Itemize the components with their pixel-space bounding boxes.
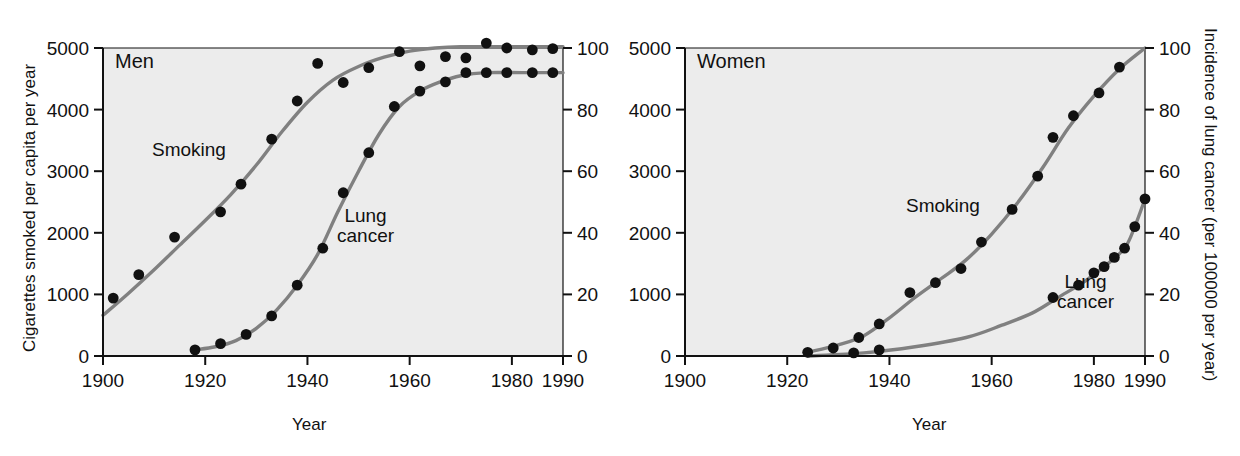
series-label-smoking-men: Smoking [152, 140, 226, 160]
svg-text:1980: 1980 [491, 370, 533, 391]
svg-text:4000: 4000 [47, 100, 89, 121]
svg-text:4000: 4000 [629, 100, 671, 121]
svg-text:1960: 1960 [971, 370, 1013, 391]
svg-text:40: 40 [1159, 223, 1180, 244]
svg-text:3000: 3000 [47, 161, 89, 182]
series-label-smoking-women: Smoking [906, 196, 980, 216]
svg-text:1900: 1900 [82, 370, 124, 391]
svg-text:1000: 1000 [629, 284, 671, 305]
svg-text:60: 60 [577, 161, 598, 182]
panel-women: 1900192019401960198019900100020003000400… [620, 0, 1240, 456]
svg-text:0: 0 [577, 346, 588, 367]
svg-text:80: 80 [1159, 100, 1180, 121]
right-axis-title-women: Incidence of lung cancer (per 100000 per… [1200, 28, 1220, 381]
series-label-line1: Lung [1057, 272, 1114, 292]
svg-text:1900: 1900 [664, 370, 706, 391]
left-axis-title-men: Cigarettes smoked per capita per year [20, 64, 40, 352]
svg-text:100: 100 [577, 38, 609, 59]
svg-text:0: 0 [78, 346, 89, 367]
svg-text:60: 60 [1159, 161, 1180, 182]
svg-text:0: 0 [1159, 346, 1170, 367]
series-label-line2: cancer [337, 226, 394, 246]
panel-label-men: Men [115, 50, 154, 73]
svg-text:40: 40 [577, 223, 598, 244]
svg-text:20: 20 [1159, 284, 1180, 305]
series-label-line1: Lung [337, 206, 394, 226]
svg-text:1990: 1990 [1124, 370, 1166, 391]
svg-text:1920: 1920 [184, 370, 226, 391]
svg-text:2000: 2000 [629, 223, 671, 244]
series-label-lung-cancer-men: Lung cancer [337, 206, 394, 246]
svg-text:5000: 5000 [47, 38, 89, 59]
series-label-line2: cancer [1057, 292, 1114, 312]
svg-text:100: 100 [1159, 38, 1191, 59]
plot-area-men: 1900192019401960198019900100020003000400… [0, 0, 620, 456]
svg-text:80: 80 [577, 100, 598, 121]
series-label-lung-cancer-women: Lung cancer [1057, 272, 1114, 312]
x-axis-title-women: Year [912, 415, 946, 435]
svg-text:1980: 1980 [1073, 370, 1115, 391]
svg-text:3000: 3000 [629, 161, 671, 182]
svg-text:0: 0 [660, 346, 671, 367]
svg-text:1960: 1960 [389, 370, 431, 391]
svg-text:20: 20 [577, 284, 598, 305]
svg-text:1940: 1940 [868, 370, 910, 391]
svg-text:1000: 1000 [47, 284, 89, 305]
svg-text:5000: 5000 [629, 38, 671, 59]
panel-label-women: Women [697, 50, 766, 73]
x-axis-title-men: Year [292, 415, 326, 435]
svg-text:1990: 1990 [542, 370, 584, 391]
svg-text:1940: 1940 [286, 370, 328, 391]
panel-men: 1900192019401960198019900100020003000400… [0, 0, 620, 456]
svg-text:1920: 1920 [766, 370, 808, 391]
svg-text:2000: 2000 [47, 223, 89, 244]
